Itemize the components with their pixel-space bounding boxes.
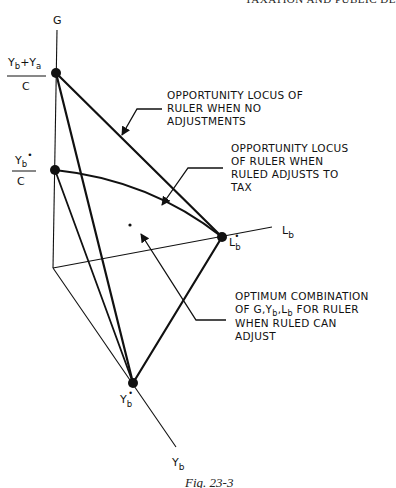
yb-axis-label: Yb [171, 456, 185, 472]
svg-text:OPPORTUNITY LOCUS: OPPORTUNITY LOCUS [231, 142, 348, 154]
point-top [51, 68, 61, 78]
svg-text:ADJUSTMENTS: ADJUSTMENTS [167, 115, 246, 127]
svg-text:RULED ADJUSTS TO: RULED ADJUSTS TO [231, 168, 339, 180]
label-top-fraction: Yb+Ya C [7, 56, 46, 93]
annotation-no-adjust: OPPORTUNITY LOCUS OF RULER WHEN NO ADJUS… [167, 89, 303, 127]
svg-text:TAX: TAX [230, 181, 252, 193]
locus-lb-to-yb [133, 237, 222, 383]
point-mid [50, 165, 60, 175]
svg-text:Yb+Ya: Yb+Ya [7, 56, 41, 71]
lb-axis-label: Lb [282, 224, 294, 240]
leader-optimum [141, 234, 226, 320]
figure-caption: Fig. 23-3 [184, 475, 234, 488]
annotation-adjusts-to-tax: OPPORTUNITY LOCUS OF RULER WHEN RULED AD… [230, 142, 348, 193]
leaders [122, 109, 226, 320]
annotation-optimum: OPTIMUM COMBINATION OF G,Yb,Lb FOR RULER… [235, 290, 369, 342]
point-yb-star [128, 378, 138, 388]
svg-text:C: C [17, 175, 25, 188]
locus-top-to-yb [56, 73, 133, 383]
g-axis [53, 30, 57, 268]
svg-text:OPPORTUNITY LOCUS OF: OPPORTUNITY LOCUS OF [167, 89, 303, 101]
svg-text:C: C [22, 80, 30, 93]
point-lb-star [217, 232, 227, 242]
svg-text:WHEN RULED CAN: WHEN RULED CAN [235, 317, 337, 329]
svg-text:Yb•: Yb• [14, 150, 32, 169]
svg-text:RULER WHEN NO: RULER WHEN NO [167, 102, 261, 114]
svg-text:OF G,Yb,Lb FOR RULER: OF G,Yb,Lb FOR RULER [235, 303, 359, 318]
line-mid-to-yb [55, 170, 133, 383]
label-mid-fraction: Yb• C [12, 150, 36, 188]
svg-text:OF RULER WHEN: OF RULER WHEN [231, 155, 323, 167]
svg-text:ADJUST: ADJUST [235, 330, 276, 342]
yb-axis [53, 268, 176, 447]
g-axis-label: G [53, 14, 62, 27]
diagram: G Lb Yb Yb+Ya C Yb• C Lb• Yb• OPPORTUNIT… [0, 0, 396, 488]
svg-text:OPTIMUM COMBINATION: OPTIMUM COMBINATION [235, 290, 369, 302]
leader-no-adjust [122, 109, 162, 135]
point-optimum [128, 223, 131, 226]
label-yb-star: Yb• [119, 389, 133, 409]
curve-mid-to-lb [55, 170, 222, 237]
